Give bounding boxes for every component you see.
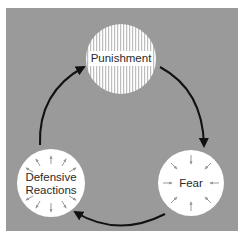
defensive-reactions-label: Defensive Reactions <box>14 171 88 197</box>
defensive-label-line2: Reactions <box>14 184 88 197</box>
punishment-label: Punishment <box>89 51 153 66</box>
cycle-diagram <box>0 0 242 239</box>
arrow-defensive-to-punishment <box>40 67 84 145</box>
arrow-punishment-to-fear <box>160 67 204 146</box>
fear-label: Fear <box>171 177 211 190</box>
defensive-label-line1: Defensive <box>14 171 88 184</box>
arrow-fear-to-defensive <box>75 212 165 226</box>
